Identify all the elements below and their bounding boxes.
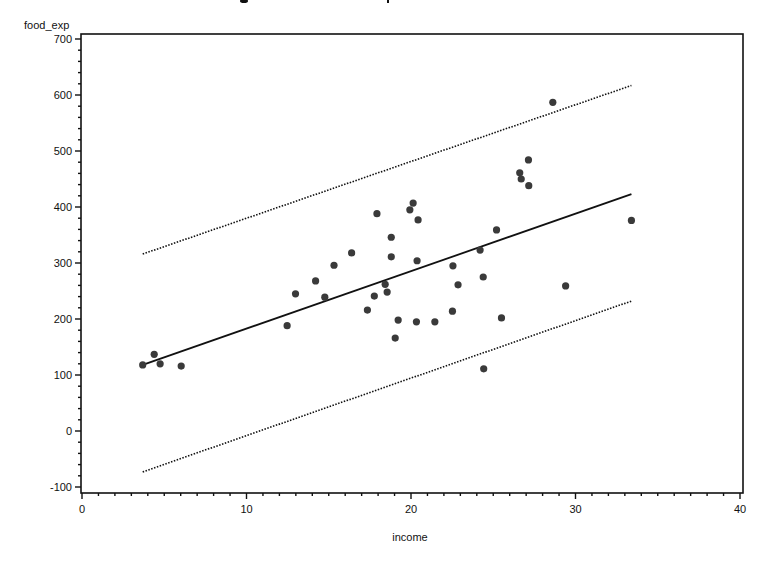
plot-canvas: -1000100200300400500600700 010203040 foo…	[0, 0, 767, 565]
data-point-marker	[628, 217, 635, 224]
data-point-marker	[388, 234, 395, 241]
data-point-marker	[395, 317, 402, 324]
data-point-marker	[178, 362, 185, 369]
fit-and-band-lines	[143, 85, 632, 471]
y-axis-label: food_exp	[24, 19, 69, 31]
y-tick-label: 500	[54, 145, 72, 157]
data-point-marker	[454, 281, 461, 288]
y-tick-label: 100	[54, 369, 72, 381]
y-tick-label: 0	[66, 425, 72, 437]
data-point-marker	[562, 282, 569, 289]
regression-line	[143, 194, 632, 365]
data-point-marker	[321, 294, 328, 301]
data-point-marker	[364, 306, 371, 313]
y-tick-label: 600	[54, 89, 72, 101]
data-point-marker	[382, 281, 389, 288]
data-point-marker	[371, 292, 378, 299]
prediction-band-line	[143, 85, 632, 254]
data-point-marker	[406, 206, 413, 213]
data-point-marker	[157, 360, 164, 367]
plot-frame	[81, 34, 743, 493]
x-tick-label: 20	[405, 503, 417, 515]
data-point-marker	[139, 361, 146, 368]
data-point-marker	[493, 226, 500, 233]
x-axis-label: income	[392, 531, 427, 543]
data-point-marker	[413, 257, 420, 264]
data-point-marker	[292, 290, 299, 297]
data-point-marker	[480, 365, 487, 372]
data-point-marker	[410, 199, 417, 206]
data-point-marker	[431, 318, 438, 325]
y-axis: -1000100200300400500600700	[50, 33, 81, 493]
data-point-marker	[151, 351, 158, 358]
data-point-marker	[388, 253, 395, 260]
scatter-chart: -1000100200300400500600700 010203040 foo…	[0, 0, 767, 565]
x-axis: 010203040	[79, 493, 746, 515]
data-point-marker	[373, 210, 380, 217]
data-point-marker	[549, 99, 556, 106]
data-point-marker	[449, 262, 456, 269]
y-tick-label: 200	[54, 313, 72, 325]
data-point-marker	[348, 249, 355, 256]
data-point-marker	[498, 314, 505, 321]
x-tick-label: 10	[240, 503, 252, 515]
y-tick-label: 700	[54, 33, 72, 45]
data-point-marker	[516, 169, 523, 176]
prediction-band-line	[143, 301, 632, 472]
y-tick-label: 400	[54, 201, 72, 213]
data-point-marker	[525, 182, 532, 189]
data-point-marker	[284, 322, 291, 329]
data-point-marker	[449, 308, 456, 315]
data-point-marker	[312, 277, 319, 284]
data-points	[139, 99, 635, 373]
data-point-marker	[476, 247, 483, 254]
data-point-marker	[525, 156, 532, 163]
data-point-marker	[413, 318, 420, 325]
cropped-title-fragment	[240, 0, 389, 3]
y-tick-label: 300	[54, 257, 72, 269]
data-point-marker	[330, 262, 337, 269]
x-tick-label: 0	[79, 503, 85, 515]
y-tick-label: -100	[50, 481, 72, 493]
data-point-marker	[384, 289, 391, 296]
data-point-marker	[414, 216, 421, 223]
x-tick-label: 30	[569, 503, 581, 515]
data-point-marker	[480, 273, 487, 280]
data-point-marker	[518, 175, 525, 182]
x-tick-label: 40	[734, 503, 746, 515]
data-point-marker	[392, 334, 399, 341]
